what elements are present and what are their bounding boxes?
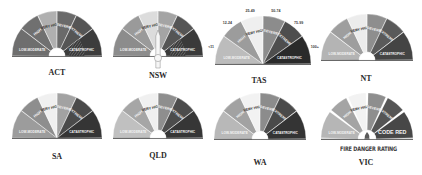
gauge-tas-segment-extreme-range-label: 75-99: [294, 21, 303, 25]
gauge-sa: LOW-MODERATEHIGHVERY HIGHSEVEREEXTREMECA…: [12, 92, 102, 148]
gauge-vic-svg: LOW-MODERATEHIGHVERY HIGHSEVEREEXTREMECO…: [320, 91, 414, 147]
gauge-tas-svg: LOW-MODERATE<11HIGH12-24VERY HIGH25-49SE…: [208, 6, 318, 74]
gauge-nt: LOW-MODERATEHIGHVERY HIGHSEVEREEXTREMECA…: [320, 12, 414, 68]
gauge-tas-segment-low-moderate-label: LOW-MODERATE: [223, 56, 249, 60]
state-label-act: ACT: [27, 68, 87, 77]
gauge-wa: LOW-MODERATEHIGHVERY HIGHSEVEREEXTREMECA…: [213, 91, 307, 147]
state-label-nsw: NSW: [128, 71, 188, 80]
gauge-nsw-segment-catastrophic-label: CATASTROPHIC: [170, 48, 196, 52]
gauge-nt-svg: LOW-MODERATEHIGHVERY HIGHSEVEREEXTREMECA…: [320, 12, 414, 68]
gauge-tas: LOW-MODERATE<11HIGH12-24VERY HIGH25-49SE…: [208, 6, 318, 74]
gauge-vic: LOW-MODERATEHIGHVERY HIGHSEVEREEXTREMECO…: [320, 91, 414, 147]
state-label-tas: TAS: [229, 76, 289, 85]
gauge-tas-segment-catastrophic-range-label: 100+: [311, 45, 319, 49]
gauge-nsw-svg: LOW-MODERATEHIGHVERY HIGHSEVEREEXTREMECA…: [113, 10, 203, 72]
gauge-wa-segment-catastrophic-label: CATASTROPHIC: [273, 131, 299, 135]
state-label-wa: WA: [230, 158, 290, 167]
gauge-vic-segment-code-red-label: CODE RED: [378, 129, 407, 135]
gauge-qld-svg: LOW-MODERATEHIGHVERY HIGHSEVEREEXTREMECA…: [113, 92, 203, 148]
gauge-wa-segment-low-moderate-label: LOW-MODERATE: [221, 131, 247, 135]
gauge-nsw: LOW-MODERATEHIGHVERY HIGHSEVEREEXTREMECA…: [113, 10, 203, 72]
gauge-nt-segment-catastrophic-label: CATASTROPHIC: [380, 52, 406, 56]
gauge-tas-segment-catastrophic-label: CATASTROPHIC: [277, 56, 303, 60]
state-label-vic: VIC: [336, 158, 396, 167]
gauge-tas-segment-very-high-range-label: 25-49: [246, 9, 255, 13]
state-label-qld: QLD: [128, 151, 188, 160]
gauge-act-segment-catastrophic-label: CATASTROPHIC: [69, 48, 95, 52]
gauge-vic-segment-low-moderate-label: LOW-MODERATE: [328, 131, 354, 135]
gauge-act-svg: LOW-MODERATEHIGHVERY HIGHSEVEREEXTREMECA…: [12, 10, 102, 66]
gauge-act: LOW-MODERATEHIGHVERY HIGHSEVEREEXTREMECA…: [12, 10, 102, 66]
gauge-sa-segment-low-moderate-label: LOW-MODERATE: [19, 130, 45, 134]
gauge-tas-segment-severe-range-label: 50-74: [271, 9, 280, 13]
fire-danger-rating-caption: FIRE DANGER RATING: [340, 145, 397, 152]
gauge-tas-segment-high-range-label: 12-24: [223, 21, 232, 25]
gauge-qld-segment-catastrophic-label: CATASTROPHIC: [170, 130, 196, 134]
gauge-nt-segment-low-moderate-label: LOW-MODERATE: [328, 52, 354, 56]
state-label-nt: NT: [336, 74, 396, 83]
gauge-tas-segment-low-moderate-range-label: <11: [208, 45, 214, 49]
gauge-sa-svg: LOW-MODERATEHIGHVERY HIGHSEVEREEXTREMECA…: [12, 92, 102, 148]
gauge-wa-svg: LOW-MODERATEHIGHVERY HIGHSEVEREEXTREMECA…: [213, 91, 307, 147]
gauge-qld: LOW-MODERATEHIGHVERY HIGHSEVEREEXTREMECA…: [113, 92, 203, 148]
gauge-qld-segment-low-moderate-label: LOW-MODERATE: [120, 130, 146, 134]
state-label-sa: SA: [27, 152, 87, 161]
gauge-nsw-segment-low-moderate-label: LOW-MODERATE: [120, 48, 146, 52]
gauge-act-segment-low-moderate-label: LOW-MODERATE: [19, 48, 45, 52]
gauge-sa-segment-catastrophic-label: CATASTROPHIC: [69, 130, 95, 134]
